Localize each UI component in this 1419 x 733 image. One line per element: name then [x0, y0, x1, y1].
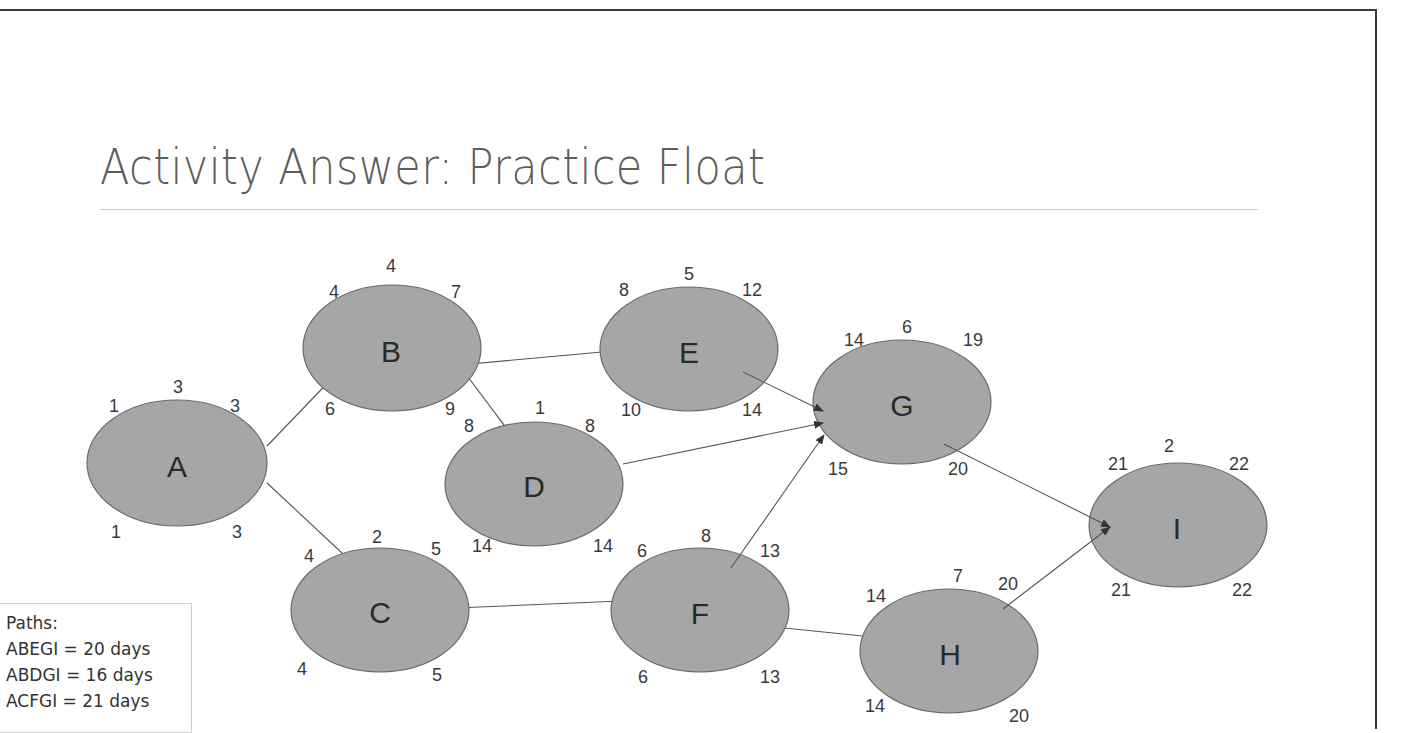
node-b-early-finish: 7 — [451, 282, 461, 302]
node-i-label: I — [1173, 512, 1181, 545]
node-d-early-finish: 8 — [585, 416, 595, 436]
path-line-abegi: ABEGI = 20 days — [6, 636, 191, 662]
node-e-label: E — [679, 336, 699, 369]
paths-heading: Paths: — [6, 610, 191, 636]
edge-g-i — [944, 444, 1110, 527]
node-e-late-finish: 14 — [742, 400, 762, 420]
node-f-late-finish: 13 — [760, 667, 780, 687]
node-h-early-start: 14 — [866, 586, 886, 606]
node-d-early-start: 8 — [464, 416, 474, 436]
node-g-late-start: 15 — [828, 459, 848, 479]
node-a-duration: 3 — [173, 377, 183, 397]
node-c-duration: 2 — [372, 527, 382, 547]
node-i-late-start: 21 — [1111, 580, 1131, 600]
node-h-late-start: 14 — [865, 696, 885, 716]
node-d-duration: 1 — [535, 398, 545, 418]
path-line-acfgi: ACFGI = 21 days — [6, 688, 191, 714]
node-d-late-start: 14 — [472, 536, 492, 556]
node-a-label: A — [167, 450, 187, 483]
node-f-late-start: 6 — [638, 667, 648, 687]
node-a: A 3 1 3 1 3 — [87, 377, 267, 542]
node-c-late-finish: 5 — [432, 665, 442, 685]
node-f-duration: 8 — [701, 526, 711, 546]
node-h: H 7 14 20 14 20 — [860, 566, 1038, 726]
node-h-duration: 7 — [953, 566, 963, 586]
node-e-early-finish: 12 — [742, 280, 762, 300]
node-e-early-start: 8 — [619, 280, 629, 300]
node-a-early-finish: 3 — [230, 396, 240, 416]
node-f-early-finish: 13 — [760, 541, 780, 561]
node-h-late-finish: 20 — [1009, 706, 1029, 726]
node-a-early-start: 1 — [109, 396, 119, 416]
edge-h-i — [1003, 527, 1110, 609]
node-e: E 5 8 12 10 14 — [600, 264, 778, 420]
node-e-late-start: 10 — [621, 400, 641, 420]
node-h-early-finish: 20 — [998, 574, 1018, 594]
path-line-abdgi: ABDGI = 16 days — [6, 662, 191, 688]
node-i-early-start: 21 — [1108, 454, 1128, 474]
paths-summary-box: Paths: ABEGI = 20 days ABDGI = 16 days A… — [0, 603, 192, 733]
node-i-late-finish: 22 — [1232, 580, 1252, 600]
node-c: C 2 4 5 4 5 — [291, 527, 469, 685]
node-b: B 4 4 7 6 9 — [303, 256, 481, 419]
node-d-late-finish: 14 — [593, 536, 613, 556]
node-e-duration: 5 — [684, 264, 694, 284]
node-c-early-finish: 5 — [431, 539, 441, 559]
edge-d-g — [623, 423, 823, 464]
node-b-label: B — [381, 335, 401, 368]
node-g-label: G — [890, 389, 913, 422]
node-g-duration: 6 — [902, 317, 912, 337]
node-i: I 2 21 22 21 22 — [1089, 436, 1267, 600]
node-i-early-finish: 22 — [1229, 454, 1249, 474]
node-g-early-finish: 19 — [963, 330, 983, 350]
node-f-label: F — [691, 597, 709, 630]
node-b-early-start: 4 — [329, 282, 339, 302]
node-c-early-start: 4 — [304, 546, 314, 566]
node-b-duration: 4 — [386, 256, 396, 276]
node-g-early-start: 14 — [844, 330, 864, 350]
node-d-label: D — [523, 470, 545, 503]
node-c-label: C — [369, 596, 391, 629]
node-b-late-start: 6 — [325, 399, 335, 419]
node-b-late-finish: 9 — [445, 399, 455, 419]
node-f-early-start: 6 — [637, 541, 647, 561]
node-d: D 1 8 8 14 14 — [445, 398, 623, 556]
node-g-late-finish: 20 — [948, 459, 968, 479]
node-f: F 8 6 13 6 13 — [611, 526, 789, 687]
node-h-label: H — [939, 638, 961, 671]
node-i-duration: 2 — [1164, 436, 1174, 456]
node-c-late-start: 4 — [297, 659, 307, 679]
node-a-late-finish: 3 — [232, 522, 242, 542]
node-a-late-start: 1 — [111, 522, 121, 542]
